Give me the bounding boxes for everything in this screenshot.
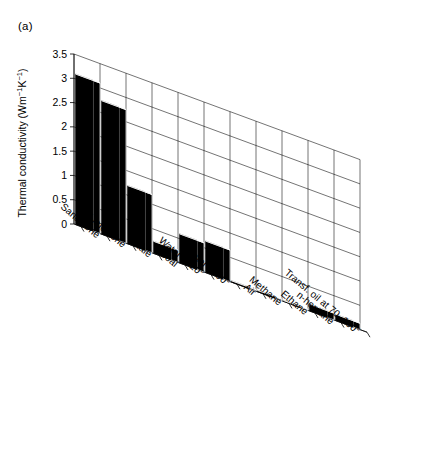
- value-tick-label-2: 2: [61, 120, 67, 132]
- value-axis-title: Thermal conductivity (Wm−1K−1): [15, 68, 29, 217]
- bar-side-face: [93, 80, 100, 233]
- value-tick-label-3.5: 3.5: [52, 48, 67, 60]
- value-tick-label-2.5: 2.5: [52, 96, 67, 108]
- value-tick-label-1: 1: [61, 169, 67, 181]
- figure-panel: (a) 00.511.522.533.5Sandstone: 3.1Limest…: [0, 0, 432, 450]
- category-tick-11: [367, 332, 370, 337]
- thermal-conductivity-bar-chart: 00.511.522.533.5Sandstone: 3.1Limestone:…: [0, 0, 432, 450]
- bar-front-face: [101, 101, 119, 241]
- value-tick-label-1.5: 1.5: [52, 145, 67, 157]
- value-axis: 00.511.522.533.5: [52, 48, 74, 230]
- bar-sandstone: Sandstone: 3.1: [75, 74, 100, 234]
- value-tick-label-0: 0: [61, 218, 67, 230]
- bar-front-face: [75, 74, 93, 231]
- bar-side-face: [119, 107, 126, 243]
- floor-right-edge: [360, 330, 367, 333]
- category-labels: SandstoneLimestoneShaleCoalWater at 20°W…: [59, 201, 363, 336]
- value-tick-label-3: 3: [61, 72, 67, 84]
